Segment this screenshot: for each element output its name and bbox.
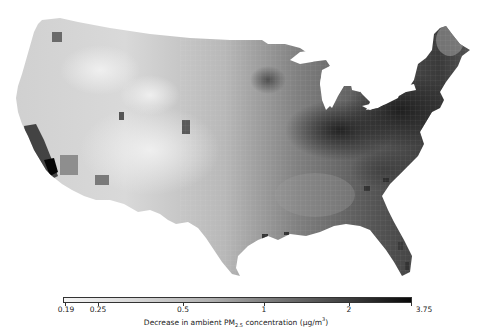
colorbar-tick-label: 1 <box>262 305 267 314</box>
colorbar-tick-label: 2 <box>347 305 352 314</box>
colorbar-gradient <box>63 297 412 303</box>
colorbar-tick <box>411 303 412 306</box>
us-pm25-map <box>0 0 499 290</box>
colorbar-tick-label: 3.75 <box>416 305 433 314</box>
colorbar-tick-label: 0.19 <box>58 305 75 314</box>
colorbar-tick-label: 0.5 <box>177 305 189 314</box>
county-shading <box>0 0 499 290</box>
colorbar-title: Decrease in ambient PM2.5 concentration … <box>144 316 328 328</box>
colorbar-tick-label: 0.25 <box>90 305 107 314</box>
